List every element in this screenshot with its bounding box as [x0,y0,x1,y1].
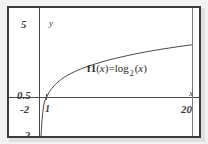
x-axis-one-label: 1 [45,104,50,114]
function-name: f1 [87,62,96,74]
log2-curve [41,45,192,136]
y-axis-min-label: -2 [21,130,30,138]
x-axis-name-label: x [189,89,193,98]
log-text: log [115,62,129,74]
plot-frame: 5 0.5 -2 -2 1 20 y x f1(x)=log2(x) [7,6,201,138]
plot-area[interactable]: 5 0.5 -2 -2 1 20 y x f1(x)=log2(x) [9,8,199,136]
x-axis-max-label: 20 [181,104,192,115]
y-axis-half-label: 0.5 [17,90,31,101]
y-axis-name-label: y [49,19,53,28]
graph-window: 5 0.5 -2 -2 1 20 y x f1(x)=log2(x) [0,0,208,144]
log-close-paren: ) [143,62,147,74]
function-equation-label[interactable]: f1(x)=log2(x) [87,63,147,78]
y-axis-max-label: 5 [21,19,27,30]
x-axis-min-label: -2 [20,104,29,115]
